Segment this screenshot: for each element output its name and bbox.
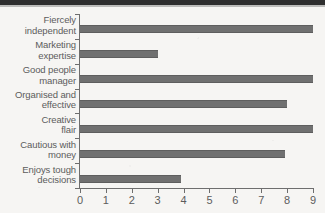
bar-chart-row: Fiercely independent	[0, 14, 325, 39]
x-axis-tick	[158, 188, 159, 193]
y-axis-tick	[75, 163, 79, 164]
x-axis-tick	[235, 188, 236, 193]
category-label: Marketing expertise	[0, 40, 76, 61]
category-label: Enjoys tough decisions	[0, 165, 76, 186]
bar	[80, 75, 313, 83]
y-axis-tick	[75, 89, 79, 90]
x-axis-tick	[313, 188, 314, 193]
x-axis-tick-label: 4	[174, 194, 194, 206]
y-axis-tick	[75, 14, 79, 15]
category-label: Good people manager	[0, 65, 76, 86]
x-axis-tick-label: 6	[225, 194, 245, 206]
x-axis-tick-label: 9	[303, 194, 323, 206]
x-axis-tick-label: 0	[70, 194, 90, 206]
bar	[80, 25, 313, 33]
category-label: Fiercely independent	[0, 15, 76, 36]
x-axis-tick	[209, 188, 210, 193]
x-axis-tick	[184, 188, 185, 193]
bar-chart-row: Good people manager	[0, 64, 325, 89]
x-axis-tick-label: 5	[199, 194, 219, 206]
bar	[80, 100, 287, 108]
bar-chart-row: Organised and effective	[0, 89, 325, 114]
category-label: Organised and effective	[0, 90, 76, 111]
x-axis-tick	[106, 188, 107, 193]
x-axis-tick-label: 8	[277, 194, 297, 206]
bar	[80, 50, 158, 58]
category-label: Creative flair	[0, 115, 76, 136]
bar-chart: Fiercely independentMarketing expertiseG…	[0, 0, 325, 213]
chart-page: Fiercely independentMarketing expertiseG…	[0, 0, 325, 213]
x-axis-tick	[261, 188, 262, 193]
bar-chart-row: Creative flair	[0, 113, 325, 138]
bar	[80, 175, 181, 183]
y-axis-tick	[75, 39, 79, 40]
x-axis-tick-label: 3	[148, 194, 168, 206]
x-axis-tick-label: 1	[96, 194, 116, 206]
x-axis-tick-label: 2	[122, 194, 142, 206]
x-axis-tick	[132, 188, 133, 193]
y-axis-tick	[75, 113, 79, 114]
bar	[80, 150, 285, 158]
y-axis-tick	[75, 138, 79, 139]
x-axis-tick-label: 7	[251, 194, 271, 206]
bar-chart-row: Enjoys tough decisions	[0, 163, 325, 188]
y-axis-tick	[75, 64, 79, 65]
x-axis-tick	[80, 188, 81, 193]
x-axis-tick	[287, 188, 288, 193]
bar-chart-row: Marketing expertise	[0, 39, 325, 64]
bar	[80, 125, 313, 133]
x-axis-line	[79, 188, 314, 189]
category-label: Cautious with money	[0, 140, 76, 161]
bar-chart-row: Cautious with money	[0, 138, 325, 163]
y-axis-tick	[75, 188, 79, 189]
